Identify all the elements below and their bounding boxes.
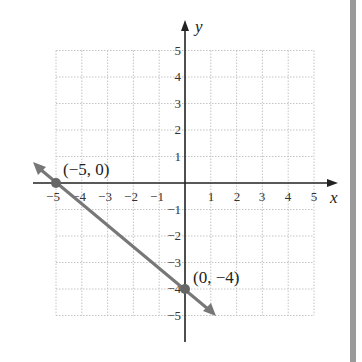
y-tick: 4 <box>175 69 182 84</box>
y-tick: 1 <box>175 149 182 164</box>
y-tick: 5 <box>175 43 182 58</box>
x-tick: 5 <box>311 189 318 204</box>
x-tick: 4 <box>285 189 292 204</box>
x-tick: −2 <box>124 189 138 204</box>
x-tick: −1 <box>150 189 164 204</box>
point-label-0-neg4: (0, −4) <box>193 268 239 287</box>
x-tick: −3 <box>98 189 112 204</box>
x-tick: 2 <box>234 189 241 204</box>
y-tick: 2 <box>175 122 182 137</box>
point-0-neg4 <box>180 284 190 294</box>
y-tick: −5 <box>167 308 181 323</box>
page-edge-bar <box>350 0 356 362</box>
point-neg5-0 <box>51 178 61 188</box>
coordinate-plane: x y −5 −4 −3 −2 −1 1 2 3 4 5 5 4 3 2 1 −… <box>0 0 362 362</box>
x-tick: 1 <box>208 189 215 204</box>
y-axis-arrow-icon <box>181 20 189 31</box>
x-tick: 3 <box>259 189 266 204</box>
y-tick: −3 <box>167 255 181 270</box>
x-tick: −5 <box>46 189 60 204</box>
y-axis-label: y <box>193 17 203 36</box>
x-axis-arrow-icon <box>327 179 338 187</box>
y-tick: −1 <box>167 202 181 217</box>
x-tick-labels: −5 −4 −3 −2 −1 1 2 3 4 5 <box>46 189 317 204</box>
y-tick: 3 <box>175 96 182 111</box>
y-tick: −2 <box>167 228 181 243</box>
x-axis-label: x <box>329 188 338 207</box>
point-label-neg5-0: (−5, 0) <box>63 160 109 179</box>
